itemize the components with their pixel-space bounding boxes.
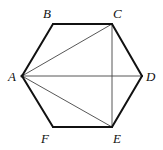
vertex-label-e: E bbox=[112, 131, 121, 146]
edge-cd bbox=[112, 24, 142, 76]
vertex-a-point bbox=[20, 74, 23, 77]
hexagon-diagram: ABCDEF bbox=[0, 0, 163, 150]
edge-de bbox=[112, 76, 142, 127]
diagonal-ae bbox=[22, 76, 112, 127]
edge-ab bbox=[22, 24, 53, 76]
diagonal-ac bbox=[22, 24, 112, 76]
vertex-label-d: D bbox=[145, 69, 156, 84]
hexagon-edges bbox=[22, 24, 142, 127]
edge-fa bbox=[22, 76, 53, 127]
vertex-label-a: A bbox=[7, 69, 16, 84]
diagonals bbox=[22, 24, 142, 127]
vertex-label-b: B bbox=[43, 6, 51, 21]
vertex-label-f: F bbox=[40, 131, 50, 146]
vertex-label-c: C bbox=[113, 6, 122, 21]
